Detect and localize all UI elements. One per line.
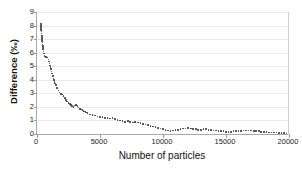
x-tick-label: 5000	[76, 137, 122, 147]
data-point	[233, 130, 235, 132]
data-point	[177, 129, 179, 131]
data-point	[51, 73, 53, 75]
data-point	[276, 132, 278, 134]
y-tick-label: 7	[20, 35, 34, 43]
data-point	[107, 117, 109, 119]
data-point	[55, 84, 57, 86]
data-point	[245, 130, 247, 132]
data-point	[228, 131, 230, 133]
x-tick-label: 0	[13, 137, 59, 147]
data-point	[268, 132, 270, 134]
data-point	[195, 128, 197, 130]
data-point	[150, 125, 152, 127]
data-point	[147, 124, 149, 126]
data-point	[187, 127, 189, 129]
data-point	[160, 128, 162, 130]
x-tick-label: 20000	[265, 137, 302, 147]
data-point	[46, 57, 48, 59]
data-point	[142, 123, 144, 125]
data-point	[271, 132, 273, 134]
y-tick-label: 5	[20, 62, 34, 70]
data-point	[210, 129, 212, 131]
data-point	[129, 121, 131, 123]
data-point	[119, 120, 121, 122]
data-point	[109, 118, 111, 120]
data-point	[94, 115, 96, 117]
data-point	[260, 131, 262, 133]
data-point	[230, 131, 232, 133]
data-point	[243, 130, 245, 132]
data-point	[73, 106, 75, 108]
data-point	[281, 132, 283, 134]
chart-figure: Difference (‰) 0123456789 05000100001500…	[0, 0, 302, 169]
data-point	[145, 124, 147, 126]
data-point	[218, 130, 220, 132]
data-point	[253, 130, 255, 132]
data-point	[278, 132, 280, 134]
data-point	[213, 130, 215, 132]
data-point	[43, 51, 45, 53]
data-point	[283, 132, 285, 134]
data-point	[263, 131, 265, 133]
data-point	[167, 130, 169, 132]
plot-right-border	[288, 12, 289, 135]
x-axis-title: Number of particles	[36, 149, 288, 163]
data-point	[157, 127, 159, 129]
data-point	[137, 122, 139, 124]
data-point	[48, 59, 50, 61]
data-point	[223, 130, 225, 132]
data-point	[43, 53, 45, 55]
data-point	[203, 128, 205, 130]
data-point	[97, 116, 99, 118]
y-tick-label: 4	[20, 76, 34, 84]
data-point	[255, 130, 257, 132]
data-point	[152, 126, 154, 128]
data-point	[89, 114, 91, 116]
data-point	[180, 128, 182, 130]
y-tick-label: 3	[20, 89, 34, 97]
data-point	[112, 117, 114, 119]
data-point	[124, 121, 126, 123]
data-point	[99, 116, 101, 118]
data-point	[114, 118, 116, 120]
data-point	[134, 121, 136, 123]
data-point	[50, 68, 52, 70]
data-point	[205, 128, 207, 130]
data-point	[225, 131, 227, 133]
data-point	[273, 132, 275, 134]
data-point	[172, 130, 174, 132]
data-point	[165, 129, 167, 131]
data-point	[117, 119, 119, 121]
data-point	[192, 128, 194, 130]
y-tick-label: 2	[20, 103, 34, 111]
data-series-difference	[37, 12, 289, 134]
data-point	[162, 128, 164, 130]
data-point	[240, 130, 242, 132]
data-point	[235, 130, 237, 132]
data-point	[250, 130, 252, 132]
data-point	[122, 120, 124, 122]
y-tick-label: 8	[20, 22, 34, 30]
data-point	[266, 131, 268, 133]
y-tick-label: 9	[20, 8, 34, 16]
data-point	[197, 129, 199, 131]
data-point	[182, 128, 184, 130]
data-point	[56, 87, 58, 89]
x-tick-label: 15000	[202, 137, 248, 147]
data-point	[92, 114, 94, 116]
x-axis-tick-labels: 05000100001500020000	[0, 137, 302, 147]
data-point	[170, 130, 172, 132]
data-point	[208, 129, 210, 131]
data-point	[185, 128, 187, 130]
data-point	[102, 116, 104, 118]
y-tick-label: 1	[20, 116, 34, 124]
data-point	[238, 130, 240, 132]
y-tick-label: 6	[20, 49, 34, 57]
x-tick-label: 10000	[139, 137, 185, 147]
y-axis-title: Difference (‰)	[7, 4, 21, 139]
data-point	[132, 122, 134, 124]
data-point	[87, 112, 89, 114]
data-point	[51, 71, 53, 73]
plot-area	[36, 12, 289, 135]
data-point	[127, 120, 129, 122]
